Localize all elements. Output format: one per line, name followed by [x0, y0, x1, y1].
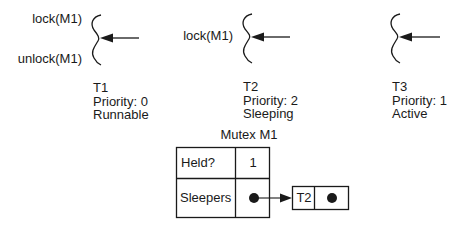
mutex-held-value: 1 — [236, 156, 270, 170]
thread-t1-name: T1 — [93, 81, 149, 95]
mutex-title: Mutex M1 — [176, 128, 322, 142]
t1-program-counter-arrow — [100, 34, 139, 43]
t2-lock-label: lock(M1) — [150, 29, 233, 43]
mutex-sleepers-label: Sleepers — [180, 191, 231, 205]
thread-t1-priority: Priority: 0 — [93, 95, 149, 109]
thread-t1-info: T1 Priority: 0 Runnable — [93, 81, 149, 122]
t2-execution-squiggle — [243, 14, 252, 63]
t3-program-counter-arrow — [399, 33, 440, 42]
thread-t2-state: Sleeping — [243, 107, 298, 121]
t1-execution-squiggle — [92, 15, 101, 65]
t1-unlock-label: unlock(M1) — [0, 52, 82, 66]
thread-t1-state: Runnable — [93, 108, 149, 122]
sleepers-pointer — [249, 193, 292, 203]
thread-t3-name: T3 — [392, 80, 447, 94]
thread-t2-name: T2 — [243, 80, 298, 94]
thread-t3-priority: Priority: 1 — [392, 94, 447, 108]
t2-program-counter-arrow — [251, 33, 290, 42]
thread-t2-priority: Priority: 2 — [243, 94, 298, 108]
thread-t3-state: Active — [392, 107, 447, 121]
sleeper-node-next-pointer — [327, 193, 337, 203]
sleeper-node-name: T2 — [293, 191, 315, 205]
mutex-held-label: Held? — [181, 156, 215, 170]
thread-t2-info: T2 Priority: 2 Sleeping — [243, 80, 298, 121]
thread-t3-info: T3 Priority: 1 Active — [392, 80, 447, 121]
t3-execution-squiggle — [391, 14, 400, 63]
t1-lock-label: lock(M1) — [0, 12, 82, 26]
